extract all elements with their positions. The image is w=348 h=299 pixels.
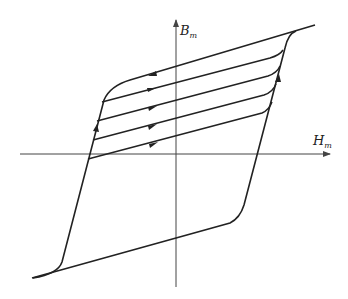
- minor-loop-2: [97, 66, 280, 121]
- minor-loop-4: [88, 102, 272, 159]
- minor-loop-1: [102, 50, 283, 102]
- minor-loop-3: [93, 84, 276, 140]
- hysteresis-diagram: Bm Hm: [0, 0, 348, 299]
- major-loop-descending: [33, 25, 315, 278]
- h-axis-label: Hm: [312, 133, 332, 150]
- b-axis-label: Bm: [179, 23, 198, 40]
- arrow-minor-1: [147, 88, 156, 92]
